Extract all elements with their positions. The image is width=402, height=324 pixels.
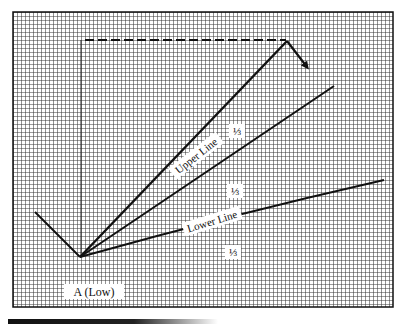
point-a-label: A (Low) bbox=[64, 284, 124, 299]
svg-text:⅓: ⅓ bbox=[229, 246, 237, 258]
third-label-2: ⅓ bbox=[227, 184, 243, 198]
grid-area bbox=[13, 12, 393, 307]
bottom-rule bbox=[8, 319, 218, 324]
third-label-1: ⅓ bbox=[229, 124, 245, 138]
svg-text:⅓: ⅓ bbox=[231, 185, 239, 197]
svg-text:A (Low): A (Low) bbox=[74, 285, 115, 299]
svg-text:⅓: ⅓ bbox=[233, 125, 241, 137]
speed-resistance-diagram: ⅓ ⅓ ⅓ Upper Line Lower Line A (Low) bbox=[0, 0, 402, 324]
third-label-3: ⅓ bbox=[225, 245, 241, 259]
